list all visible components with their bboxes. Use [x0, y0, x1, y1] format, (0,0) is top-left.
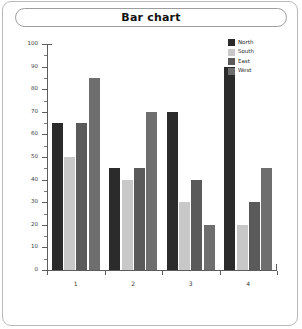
bar-east-4	[249, 202, 260, 270]
y-axis-tick	[42, 180, 47, 181]
y-axis-tick-label: 90	[18, 64, 38, 70]
y-axis-tick	[42, 44, 47, 45]
legend-swatch-icon	[228, 49, 235, 56]
y-axis-tick-label: 30	[18, 199, 38, 205]
y-axis-tick	[42, 89, 47, 90]
y-axis-tick-label: 70	[18, 109, 38, 115]
y-axis-minor-tick	[44, 191, 47, 192]
bar-east-2	[134, 168, 145, 270]
bar-north-1	[52, 123, 63, 270]
y-axis-tick-label: 50	[18, 154, 38, 160]
y-axis-minor-tick	[44, 236, 47, 237]
x-axis-tick-label: 4	[238, 281, 258, 287]
legend-item-north[interactable]: North	[228, 38, 280, 47]
x-axis-tick	[277, 271, 278, 275]
y-axis-minor-tick	[44, 101, 47, 102]
y-axis-line	[47, 44, 48, 271]
x-axis-tick	[47, 271, 48, 275]
y-axis-minor-tick	[44, 214, 47, 215]
bar-west-2	[146, 112, 157, 270]
x-axis-end-cap	[276, 264, 277, 271]
y-axis-tick-label: 80	[18, 86, 38, 92]
bar-north-2	[109, 168, 120, 270]
y-axis-minor-tick	[44, 259, 47, 260]
bar-south-1	[64, 157, 75, 270]
bar-south-4	[237, 225, 248, 270]
bar-east-3	[191, 180, 202, 270]
y-axis-minor-tick	[44, 123, 47, 124]
y-axis-tick	[42, 134, 47, 135]
bar-west-1	[89, 78, 100, 270]
legend-item-west[interactable]: West	[228, 67, 280, 76]
legend-item-label: East	[238, 59, 250, 65]
y-axis-minor-tick	[44, 146, 47, 147]
x-axis-tick	[220, 271, 221, 275]
y-axis-tick-label: 0	[18, 267, 38, 273]
y-axis-tick-label: 60	[18, 131, 38, 137]
x-axis-tick	[162, 271, 163, 275]
bar-north-3	[167, 112, 178, 270]
bar-west-3	[204, 225, 215, 270]
legend-item-label: North	[238, 40, 253, 46]
y-axis-tick-label: 40	[18, 177, 38, 183]
bar-north-4	[224, 67, 235, 270]
bar-south-2	[122, 180, 133, 270]
x-axis-tick	[105, 271, 106, 275]
legend-swatch-icon	[228, 39, 235, 46]
legend-swatch-icon	[228, 68, 235, 75]
y-axis-tick	[42, 225, 47, 226]
y-axis-minor-tick	[44, 78, 47, 79]
y-axis-top-cap	[47, 44, 52, 45]
y-axis-tick-label: 100	[18, 41, 38, 47]
y-axis-tick	[42, 202, 47, 203]
chart-legend: NorthSouthEastWest	[228, 38, 280, 76]
bar-south-3	[179, 202, 190, 270]
legend-item-south[interactable]: South	[228, 48, 280, 57]
legend-item-east[interactable]: East	[228, 57, 280, 66]
bar-east-1	[76, 123, 87, 270]
y-axis-tick	[42, 157, 47, 158]
y-axis-tick-label: 10	[18, 244, 38, 250]
x-axis-tick-label: 1	[66, 281, 86, 287]
x-axis-tick-label: 2	[123, 281, 143, 287]
legend-swatch-icon	[228, 58, 235, 65]
y-axis-tick-label: 20	[18, 222, 38, 228]
legend-item-label: South	[238, 49, 254, 55]
y-axis-tick	[42, 112, 47, 113]
y-axis-minor-tick	[44, 55, 47, 56]
x-axis-tick-label: 3	[181, 281, 201, 287]
y-axis-minor-tick	[44, 168, 47, 169]
bar-west-4	[261, 168, 272, 270]
y-axis-tick	[42, 247, 47, 248]
y-axis-tick	[42, 67, 47, 68]
legend-item-label: West	[238, 68, 252, 74]
